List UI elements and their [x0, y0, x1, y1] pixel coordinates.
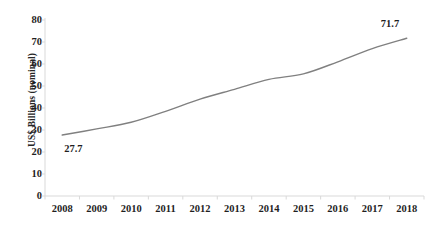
line-chart: US$ Billions (nominal) 01020304050607080… [0, 0, 431, 227]
x-tick-label: 2018 [387, 204, 427, 215]
x-axis-tick-labels: 2008200920102011201220132014201520162017… [0, 0, 431, 227]
data-point-label: 27.7 [64, 144, 82, 155]
data-point-label: 71.7 [381, 19, 399, 30]
